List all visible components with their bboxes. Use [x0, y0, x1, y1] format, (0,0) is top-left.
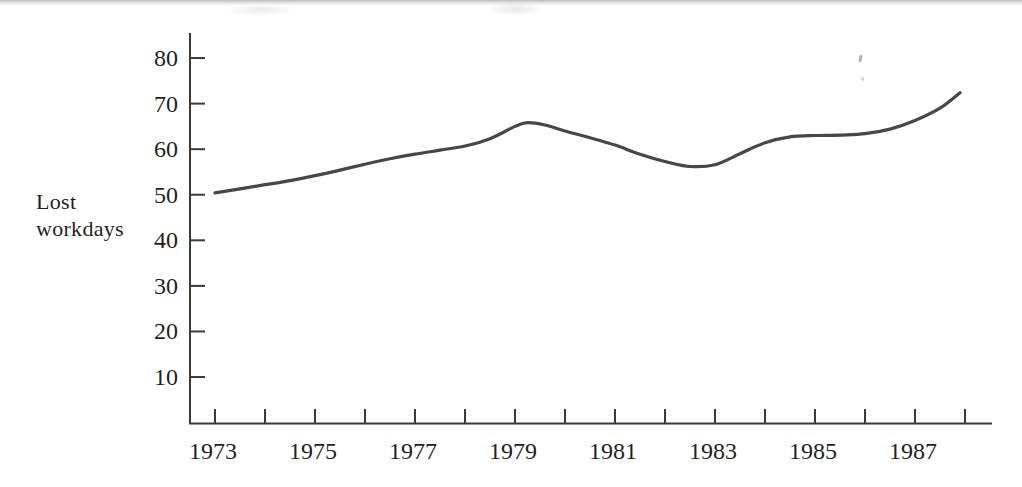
x-tick-label: 1973	[189, 438, 237, 464]
data-line-lost-workdays	[215, 93, 960, 193]
y-tick-label: 10	[154, 364, 178, 390]
x-tick-label: 1981	[589, 438, 637, 464]
y-tick-label: 30	[154, 273, 178, 299]
chart-canvas: 1020304050607080197319751977197919811983…	[0, 0, 1022, 487]
y-tick-label: 20	[154, 318, 178, 344]
line-chart: 1020304050607080197319751977197919811983…	[0, 0, 1022, 487]
x-tick-label: 1977	[389, 438, 437, 464]
x-tick-label: 1987	[889, 438, 937, 464]
y-tick-label: 80	[154, 45, 178, 71]
y-tick-label: 40	[154, 227, 178, 253]
y-tick-label: 60	[154, 136, 178, 162]
x-tick-label: 1983	[689, 438, 737, 464]
figure-lost-workdays: Lost workdays 10203040506070801973197519…	[0, 0, 1022, 487]
x-tick-label: 1979	[489, 438, 537, 464]
y-tick-label: 70	[154, 91, 178, 117]
x-tick-label: 1985	[789, 438, 837, 464]
y-tick-label: 50	[154, 182, 178, 208]
x-tick-label: 1975	[289, 438, 337, 464]
